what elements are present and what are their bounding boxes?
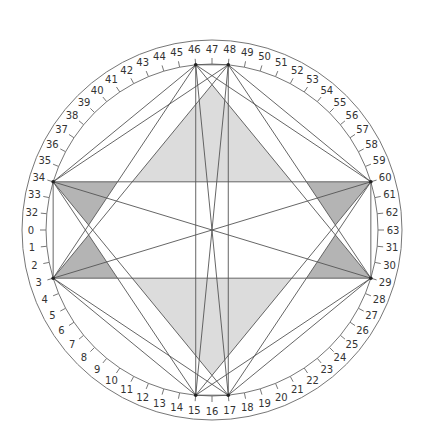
position-label: 50 bbox=[258, 51, 271, 62]
position-label: 11 bbox=[120, 384, 133, 395]
tick-mark bbox=[116, 368, 119, 373]
tick-mark bbox=[146, 383, 148, 389]
position-label: 28 bbox=[373, 294, 386, 305]
position-label: 0 bbox=[28, 225, 34, 236]
position-label: 36 bbox=[46, 139, 59, 150]
tick-mark bbox=[90, 108, 94, 112]
position-label: 6 bbox=[58, 325, 64, 336]
position-label: 15 bbox=[188, 405, 201, 416]
tick-mark bbox=[350, 134, 355, 137]
tick-mark bbox=[53, 164, 59, 166]
position-label: 19 bbox=[258, 398, 271, 409]
position-label: 14 bbox=[170, 402, 183, 413]
position-label: 10 bbox=[105, 375, 118, 386]
position-label: 2 bbox=[31, 260, 37, 271]
tick-mark bbox=[162, 65, 164, 71]
vertex-15 bbox=[194, 393, 198, 397]
tick-mark bbox=[377, 213, 383, 214]
tick-mark bbox=[304, 87, 307, 92]
position-label: 23 bbox=[320, 364, 333, 375]
tick-mark bbox=[53, 294, 59, 296]
tick-mark bbox=[79, 335, 84, 339]
tick-mark bbox=[260, 65, 262, 71]
tick-mark bbox=[276, 71, 278, 77]
tick-mark bbox=[290, 376, 293, 381]
position-label: 26 bbox=[356, 325, 369, 336]
position-label: 32 bbox=[26, 207, 39, 218]
tick-mark bbox=[43, 196, 49, 197]
tick-mark bbox=[329, 108, 333, 112]
tick-mark bbox=[244, 61, 245, 67]
position-label: 12 bbox=[136, 392, 149, 403]
tick-mark bbox=[358, 308, 363, 311]
position-label: 39 bbox=[78, 97, 91, 108]
tick-mark bbox=[131, 78, 134, 83]
tick-mark bbox=[304, 368, 307, 373]
tick-mark bbox=[131, 376, 134, 381]
tick-mark bbox=[329, 347, 333, 351]
position-label: 17 bbox=[223, 405, 236, 416]
position-label: 38 bbox=[66, 110, 79, 121]
position-label: 8 bbox=[81, 352, 87, 363]
tick-mark bbox=[116, 87, 119, 92]
position-label: 9 bbox=[94, 364, 100, 375]
tick-mark bbox=[340, 121, 345, 125]
position-label: 51 bbox=[275, 57, 288, 68]
position-label: 57 bbox=[356, 124, 369, 135]
circle-chord-diagram: 0323334353637383940414243444546474849505… bbox=[0, 0, 422, 443]
position-label: 42 bbox=[120, 65, 133, 76]
lower-light-triangle bbox=[132, 278, 292, 375]
position-label: 59 bbox=[373, 155, 386, 166]
tick-mark bbox=[103, 97, 107, 102]
position-label: 20 bbox=[275, 392, 288, 403]
position-label: 30 bbox=[383, 260, 396, 271]
upper-right-dark-triangle bbox=[306, 182, 370, 225]
tick-mark bbox=[43, 262, 49, 263]
tick-mark bbox=[375, 262, 381, 263]
tick-mark bbox=[178, 61, 179, 67]
position-label: 63 bbox=[387, 225, 400, 236]
position-label: 21 bbox=[291, 384, 304, 395]
tick-mark bbox=[358, 149, 363, 152]
position-label: 7 bbox=[69, 339, 75, 350]
position-label: 58 bbox=[365, 139, 378, 150]
tick-mark bbox=[69, 134, 74, 137]
position-label: 18 bbox=[241, 402, 254, 413]
vertex-48 bbox=[226, 63, 230, 67]
vertex-29 bbox=[369, 276, 373, 280]
tick-mark bbox=[276, 383, 278, 389]
vertex-60 bbox=[369, 180, 373, 184]
position-label: 41 bbox=[105, 74, 118, 85]
lower-left-dark-triangle bbox=[53, 235, 117, 278]
position-label: 60 bbox=[379, 172, 392, 183]
position-label: 27 bbox=[365, 310, 378, 321]
position-label: 46 bbox=[188, 44, 201, 55]
position-label: 53 bbox=[306, 74, 319, 85]
tick-mark bbox=[260, 389, 262, 395]
position-label: 16 bbox=[206, 406, 219, 417]
tick-mark bbox=[146, 71, 148, 77]
position-label: 48 bbox=[223, 44, 236, 55]
position-label: 61 bbox=[383, 189, 396, 200]
position-label: 22 bbox=[306, 375, 319, 386]
position-label: 56 bbox=[346, 110, 359, 121]
tick-mark bbox=[69, 322, 74, 325]
position-label: 40 bbox=[91, 85, 104, 96]
position-label: 4 bbox=[42, 294, 48, 305]
position-label: 5 bbox=[49, 310, 55, 321]
tick-mark bbox=[365, 164, 371, 166]
position-label: 62 bbox=[386, 207, 399, 218]
position-label: 3 bbox=[36, 277, 42, 288]
tick-mark bbox=[41, 213, 47, 214]
tick-mark bbox=[365, 294, 371, 296]
position-label: 49 bbox=[241, 47, 254, 58]
vertex-46 bbox=[194, 63, 198, 67]
upper-left-dark-triangle bbox=[53, 182, 117, 225]
position-label: 25 bbox=[346, 339, 359, 350]
position-label: 55 bbox=[334, 97, 347, 108]
tick-mark bbox=[244, 393, 245, 399]
position-label: 1 bbox=[29, 242, 35, 253]
tick-mark bbox=[41, 246, 47, 247]
position-label: 37 bbox=[55, 124, 68, 135]
position-label: 44 bbox=[153, 51, 166, 62]
